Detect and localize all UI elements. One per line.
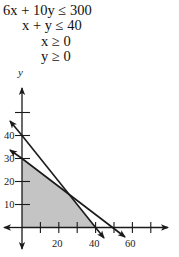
x-tick-label-40: 40 [89, 238, 100, 249]
y-tick-label-10: 10 [4, 199, 15, 210]
y-tick-label-40: 40 [4, 130, 15, 141]
y-axis-label: y [17, 66, 23, 78]
feasible-region-graph: 40 30 20 10 20 40 60 y [0, 0, 179, 257]
y-tick-label-30: 30 [4, 153, 15, 164]
x-tick-label-20: 20 [52, 238, 63, 249]
x-tick-label-60: 60 [125, 238, 136, 249]
y-tick-label-20: 20 [4, 176, 15, 187]
feasible-region [22, 159, 96, 228]
